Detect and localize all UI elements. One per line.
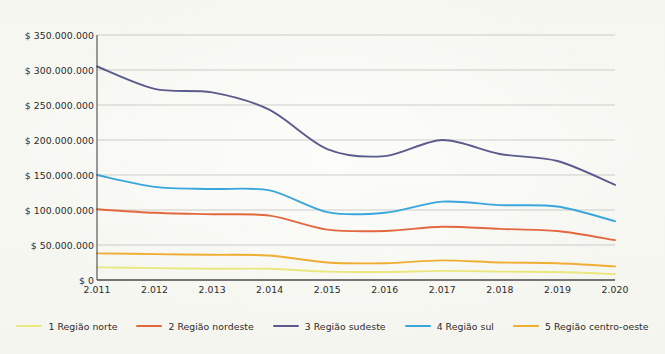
series-line-5 xyxy=(97,253,615,266)
x-axis-tick-label: 2.015 xyxy=(314,284,341,295)
y-axis-tick-label: $ 200.000.000 xyxy=(2,135,94,146)
y-axis-labels: $ 350.000.000$ 300.000.000$ 250.000.000$… xyxy=(0,35,94,280)
legend-swatch-icon xyxy=(513,325,539,327)
series-line-1 xyxy=(97,267,615,274)
x-axis-tick-label: 2.020 xyxy=(601,284,628,295)
legend-swatch-icon xyxy=(136,325,162,327)
y-axis-tick-label: $ 150.000.000 xyxy=(2,170,94,181)
legend-item-5[interactable]: 5 Região centro-oeste xyxy=(513,321,649,332)
plot-area xyxy=(97,35,615,280)
line-chart-svg xyxy=(97,35,615,280)
y-axis-tick-label: $ 0 xyxy=(2,275,94,286)
y-axis-tick-label: $ 350.000.000 xyxy=(2,30,94,41)
x-axis-tick-label: 2.014 xyxy=(256,284,283,295)
legend-item-2[interactable]: 2 Região nordeste xyxy=(136,321,253,332)
series-lines xyxy=(97,67,615,275)
legend-swatch-icon xyxy=(16,325,42,327)
y-axis-tick-label: $ 50.000.000 xyxy=(2,240,94,251)
chart-legend: 1 Região norte2 Região nordeste3 Região … xyxy=(0,316,665,336)
legend-item-3[interactable]: 3 Região sudeste xyxy=(273,321,386,332)
series-line-3 xyxy=(97,67,615,185)
x-axis-tick-label: 2.016 xyxy=(371,284,398,295)
x-axis-tick-label: 2.017 xyxy=(429,284,456,295)
legend-swatch-icon xyxy=(405,325,431,327)
x-axis-tick-label: 2.013 xyxy=(199,284,226,295)
legend-label: 1 Região norte xyxy=(48,321,117,332)
legend-item-1[interactable]: 1 Região norte xyxy=(16,321,117,332)
chart-page: $ 350.000.000$ 300.000.000$ 250.000.000$… xyxy=(0,0,665,354)
x-axis-tick-label: 2.019 xyxy=(544,284,571,295)
legend-item-4[interactable]: 4 Região sul xyxy=(405,321,494,332)
legend-label: 5 Região centro-oeste xyxy=(545,321,649,332)
legend-swatch-icon xyxy=(273,325,299,327)
y-axis-tick-label: $ 250.000.000 xyxy=(2,100,94,111)
x-axis-labels: 2.0112.0122.0132.0142.0152.0162.0172.018… xyxy=(97,284,615,302)
legend-label: 4 Região sul xyxy=(437,321,494,332)
legend-label: 2 Região nordeste xyxy=(168,321,253,332)
legend-label: 3 Região sudeste xyxy=(305,321,386,332)
x-axis-tick-label: 2.011 xyxy=(83,284,110,295)
y-axis-tick-label: $ 100.000.000 xyxy=(2,205,94,216)
y-axis-tick-label: $ 300.000.000 xyxy=(2,65,94,76)
x-axis-tick-label: 2.018 xyxy=(486,284,513,295)
x-axis-tick-label: 2.012 xyxy=(141,284,168,295)
